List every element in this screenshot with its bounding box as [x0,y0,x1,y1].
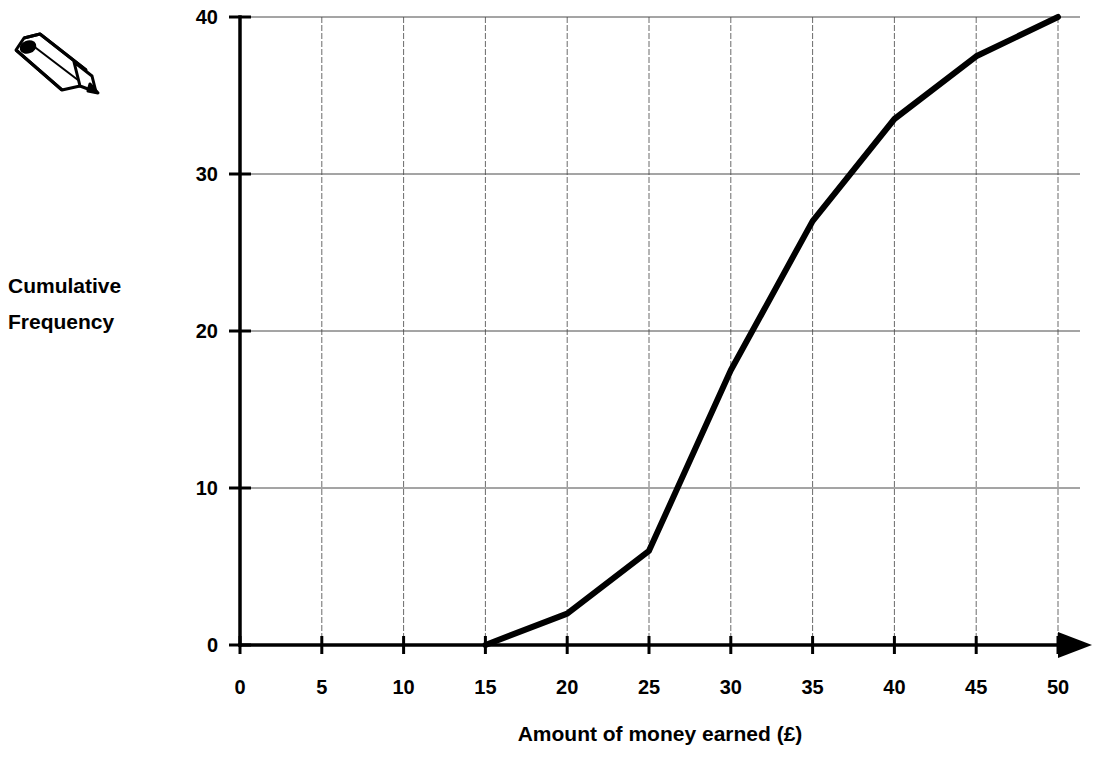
cumulative-frequency-chart: Cumulative Frequency Amount of money ear… [0,0,1118,771]
plot-area [0,0,1118,771]
horizontal-gridlines [240,17,1080,488]
x-axis-arrow-icon [1058,632,1092,658]
